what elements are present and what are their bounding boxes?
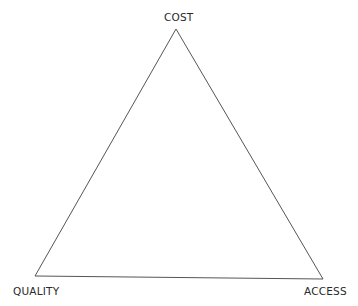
vertex-label-access: ACCESS — [304, 285, 347, 297]
vertex-label-quality: QUALITY — [13, 285, 59, 297]
vertex-label-cost: COST — [164, 11, 193, 23]
triangle-diagram — [0, 0, 358, 306]
triangle-shape — [35, 29, 323, 279]
